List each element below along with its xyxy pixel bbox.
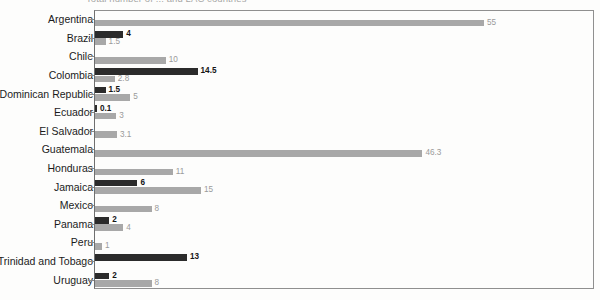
bar-dark: 6: [95, 180, 145, 187]
bar-row: Panama24: [0, 215, 600, 234]
bar-row: Guatemala46.3: [0, 140, 600, 159]
bar-value-label: 55: [487, 19, 496, 27]
category-label: Colombia: [49, 70, 93, 81]
bar-light: 8: [95, 280, 159, 287]
bar-dark: 2: [95, 273, 117, 280]
axis-tick: [88, 149, 94, 150]
bar-row: Ecuador0.13: [0, 103, 600, 122]
category-label: Guatemala: [42, 144, 93, 155]
bar-value-label: 8: [155, 279, 160, 287]
bar-value-label: 2: [112, 216, 117, 224]
bar-fill-dark: [95, 87, 106, 94]
bar-fill-light: [95, 280, 152, 287]
category-label: Argentina: [48, 14, 93, 25]
bar-light: 3: [95, 113, 124, 120]
bar-value-label: 15: [204, 186, 213, 194]
bar-rows: Argentina55Brazil41.5Chile10Colombia14.5…: [0, 10, 600, 289]
category-label: El Salvador: [39, 126, 93, 137]
bar-value-label: 2.8: [118, 75, 129, 83]
bar-row: Trinidad and Tobago13: [0, 252, 600, 271]
bar-row: Argentina55: [0, 10, 600, 29]
bar-dark: 0.1: [95, 105, 111, 112]
bar-fill-light: [95, 76, 115, 83]
bar-light: 1.5: [95, 38, 120, 45]
chart-page: Total number of ... and LAC countries Ar…: [0, 0, 600, 300]
bar-row: Peru1: [0, 233, 600, 252]
row-bars: 0.13: [95, 103, 600, 122]
bar-fill-light: [95, 150, 422, 157]
bar-fill-light: [95, 243, 102, 250]
bar-light: 2.8: [95, 76, 129, 83]
axis-tick: [88, 261, 94, 262]
bar-dark: 2: [95, 217, 117, 224]
axis-tick: [88, 94, 94, 95]
bar-fill-dark: [95, 217, 109, 224]
row-bars: 615: [95, 177, 600, 196]
row-bars: 55: [95, 10, 600, 29]
bar-light: 4: [95, 224, 131, 231]
bar-dark: 14.5: [95, 68, 216, 75]
bar-row: Chile10: [0, 47, 600, 66]
bar-dark: 13: [95, 254, 199, 261]
bar-fill-light: [95, 57, 166, 64]
axis-tick: [88, 75, 94, 76]
axis-tick: [88, 38, 94, 39]
bar-row: Brazil41.5: [0, 29, 600, 48]
bar-fill-light: [95, 187, 201, 194]
row-bars: 13: [95, 252, 600, 271]
bar-light: 8: [95, 206, 159, 213]
axis-tick: [88, 205, 94, 206]
bar-value-label: 1: [105, 242, 110, 250]
category-label: Trinidad and Tobago: [0, 256, 93, 267]
bar-fill-light: [95, 169, 173, 176]
bar-value-label: 2: [112, 272, 117, 280]
bar-fill-light: [95, 131, 117, 138]
bar-value-label: 3.1: [120, 131, 131, 139]
bar-value-label: 4: [126, 30, 131, 38]
bar-fill-dark: [95, 254, 187, 261]
bar-fill-dark: [95, 105, 97, 112]
bar-value-label: 11: [176, 168, 185, 176]
row-bars: 24: [95, 215, 600, 234]
bar-fill-dark: [95, 273, 109, 280]
row-bars: 1.55: [95, 84, 600, 103]
bar-value-label: 10: [169, 56, 178, 64]
row-bars: 1: [95, 233, 600, 252]
row-bars: 28: [95, 270, 600, 289]
bar-fill-light: [95, 38, 106, 45]
bar-value-label: 13: [190, 253, 199, 261]
row-bars: 8: [95, 196, 600, 215]
bar-value-label: 46.3: [425, 149, 441, 157]
bar-fill-light: [95, 94, 130, 101]
bar-fill-light: [95, 224, 123, 231]
bar-value-label: 8: [155, 205, 160, 213]
row-bars: 11: [95, 159, 600, 178]
bar-light: 10: [95, 57, 178, 64]
row-bars: 10: [95, 47, 600, 66]
bar-row: Jamaica615: [0, 177, 600, 196]
row-bars: 41.5: [95, 29, 600, 48]
bar-row: Dominican Republic1.55: [0, 84, 600, 103]
bar-row: Colombia14.52.8: [0, 66, 600, 85]
bar-value-label: 1.5: [109, 86, 120, 94]
bar-light: 1: [95, 243, 110, 250]
axis-tick: [88, 242, 94, 243]
bar-fill-light: [95, 20, 484, 27]
bar-row: Uruguay28: [0, 270, 600, 289]
bar-value-label: 14.5: [201, 67, 217, 75]
bar-fill-dark: [95, 180, 137, 187]
axis-tick: [88, 280, 94, 281]
axis-tick: [88, 112, 94, 113]
row-bars: 46.3: [95, 140, 600, 159]
axis-tick: [88, 224, 94, 225]
bar-value-label: 6: [140, 179, 145, 187]
bar-light: 46.3: [95, 150, 441, 157]
bar-value-label: 3: [119, 112, 124, 120]
bar-light: 11: [95, 169, 184, 176]
bar-fill-light: [95, 113, 116, 120]
axis-tick: [88, 131, 94, 132]
category-label: Dominican Republic: [0, 88, 93, 99]
bar-light: 55: [95, 20, 496, 27]
axis-tick: [88, 168, 94, 169]
bar-light: 15: [95, 187, 213, 194]
